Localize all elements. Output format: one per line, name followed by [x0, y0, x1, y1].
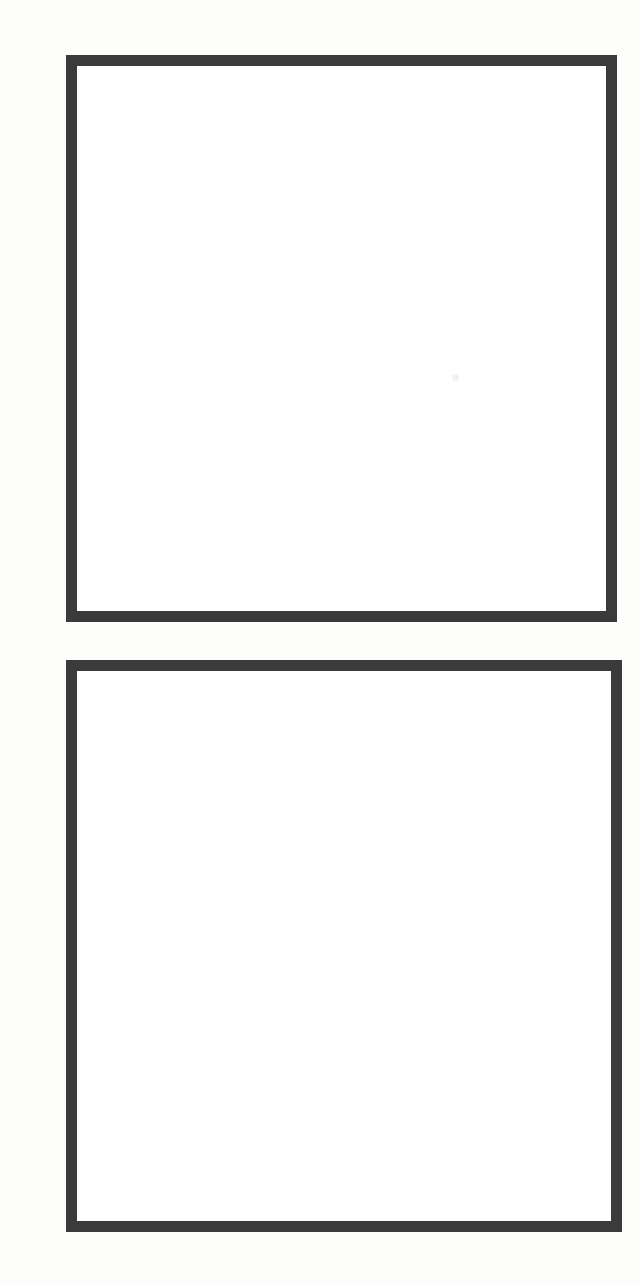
upper-empty-frame	[66, 55, 617, 622]
lower-frame-blank-field	[77, 671, 611, 1221]
lower-empty-frame	[66, 660, 622, 1232]
scanned-page	[0, 0, 639, 1285]
upper-frame-blank-field	[77, 66, 606, 611]
